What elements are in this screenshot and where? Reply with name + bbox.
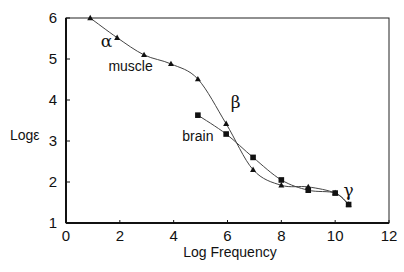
square-marker: [250, 155, 256, 161]
series-layer: [87, 15, 351, 208]
triangle-marker: [223, 121, 229, 126]
square-marker: [195, 112, 201, 118]
x-tick-label: 0: [62, 227, 70, 244]
series-muscle: [87, 15, 351, 207]
x-tick-label: 4: [169, 227, 177, 244]
y-tick-label: 1: [49, 214, 57, 231]
annotations: αmuscleβbrainγ: [101, 31, 354, 201]
y-tick-label: 3: [49, 132, 57, 149]
series-brain: [195, 112, 351, 207]
square-marker: [223, 131, 229, 137]
x-tick-label: 12: [381, 227, 398, 244]
square-marker: [346, 202, 352, 208]
triangle-marker: [114, 34, 120, 39]
square-marker: [332, 190, 338, 196]
chart: 024681012 123456 αmuscleβbrainγ Log Freq…: [0, 0, 404, 272]
triangle-marker: [141, 52, 147, 57]
annotation-greek: β: [231, 92, 241, 112]
x-tick-label: 10: [327, 227, 344, 244]
annotation-greek: α: [101, 31, 113, 51]
square-marker: [305, 187, 311, 193]
annotation-greek: γ: [344, 180, 354, 200]
y-tick-label: 5: [49, 50, 57, 67]
plot-border: [66, 18, 389, 223]
x-tick-label: 2: [116, 227, 124, 244]
plot-frame: [66, 18, 389, 223]
y-tick-label: 4: [49, 91, 57, 108]
y-tick-label: 6: [49, 9, 57, 26]
x-axis-title: Log Frequency: [183, 244, 276, 260]
square-marker: [279, 177, 285, 183]
annotation-muscle: muscle: [108, 58, 153, 74]
annotation-brain: brain: [182, 128, 213, 144]
y-axis-title: Logε: [10, 127, 40, 143]
y-tick-label: 2: [49, 173, 57, 190]
x-tick-label: 8: [277, 227, 285, 244]
x-tick-label: 6: [223, 227, 231, 244]
